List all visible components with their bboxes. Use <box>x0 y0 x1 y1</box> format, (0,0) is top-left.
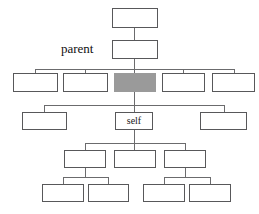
node-gc-1[interactable] <box>64 150 106 168</box>
edge-bus-to-gc-3 <box>185 143 186 150</box>
edge-sibling-bus <box>35 69 234 70</box>
edge-self-down <box>134 130 135 144</box>
edge-bus-to-gc-1 <box>85 143 86 150</box>
edge-children-bus <box>44 105 224 106</box>
node-root[interactable] <box>112 8 158 28</box>
edge-root-to-parent <box>134 28 135 40</box>
node-current[interactable] <box>114 73 156 92</box>
node-self[interactable]: self <box>115 112 153 130</box>
edge-ggc-right-bus <box>164 177 210 178</box>
node-ggc-2[interactable] <box>88 184 129 202</box>
node-child-right[interactable] <box>200 112 247 130</box>
node-sibling-3[interactable] <box>162 73 205 92</box>
node-ggc-3[interactable] <box>143 184 185 202</box>
node-sibling-1[interactable] <box>13 73 58 92</box>
node-child-left[interactable] <box>22 112 67 130</box>
node-gc-3[interactable] <box>164 150 206 168</box>
edge-bus-to-child-right <box>224 105 225 112</box>
caption-parent: parent <box>61 42 93 55</box>
node-ggc-4[interactable] <box>189 184 231 202</box>
node-parent[interactable] <box>112 40 158 59</box>
edge-parent-down-to-bus <box>134 59 135 73</box>
node-sibling-2[interactable] <box>63 73 108 92</box>
node-sibling-4[interactable] <box>212 73 255 92</box>
node-ggc-1[interactable] <box>42 184 84 202</box>
edge-ggc-left-bus <box>63 177 108 178</box>
node-self-label: self <box>127 116 141 126</box>
edge-bus-to-gc-2 <box>134 143 135 150</box>
edge-gc-bus <box>85 143 186 144</box>
edge-bus-to-child-left <box>44 105 45 112</box>
edge-current-down <box>134 92 135 112</box>
tree-diagram-canvas: self parent <box>0 0 259 214</box>
node-gc-2[interactable] <box>114 150 156 168</box>
